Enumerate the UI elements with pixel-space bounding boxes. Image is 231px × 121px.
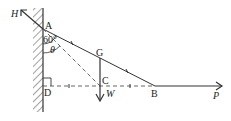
label-b: B [151,88,158,99]
label-p: P [212,90,219,101]
label-w: W [106,88,116,99]
label-theta: θ [50,44,55,55]
label-g: G [96,47,103,58]
label-d: D [44,87,51,98]
statics-diagram: H A 60° θ G C D W B P [0,0,231,121]
wall [33,8,43,112]
label-h: H [10,8,19,19]
label-c: C [102,75,109,86]
force-p-arrow [155,82,222,90]
right-angle-marker [43,78,51,86]
label-a: A [45,20,53,31]
